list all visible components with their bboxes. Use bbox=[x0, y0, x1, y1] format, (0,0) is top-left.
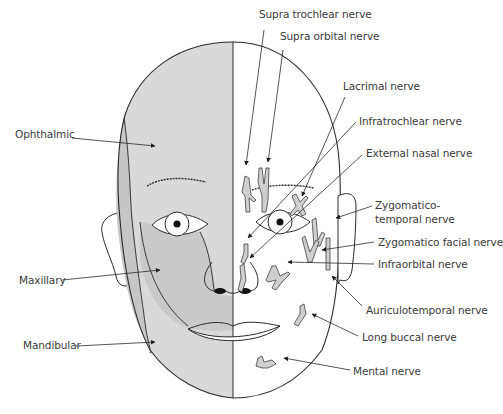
right-pupil bbox=[277, 219, 284, 226]
long-buccal-branch bbox=[294, 304, 306, 326]
label-ophthalmic: Ophthalmic bbox=[15, 128, 75, 141]
label-auriculotemporal-nerve: Auriculotemporal nerve bbox=[366, 304, 488, 317]
label-mental-nerve: Mental nerve bbox=[353, 365, 421, 378]
infraorbital-branch bbox=[266, 266, 290, 290]
infratrochlear-branch bbox=[241, 244, 248, 264]
label-zygomatico-temporal-nerve-line1: Zygomatico- bbox=[375, 199, 440, 212]
supra-orbital-pointer bbox=[268, 50, 283, 162]
mandibular-pointer bbox=[76, 342, 155, 346]
zygomaticofacial-branch bbox=[302, 236, 319, 262]
label-supra-orbital-nerve: Supra orbital nerve bbox=[280, 30, 379, 43]
external-nasal-branch bbox=[238, 264, 246, 292]
supratrochlear-branch bbox=[242, 176, 256, 212]
left-nostril bbox=[214, 288, 226, 294]
label-maxillary: Maxillary bbox=[19, 274, 66, 287]
label-mandibular: Mandibular bbox=[23, 339, 81, 352]
label-infraorbital-nerve: Infraorbital nerve bbox=[378, 258, 468, 271]
mental-branch bbox=[256, 356, 276, 368]
right-ear bbox=[338, 194, 356, 284]
infraorbital-pointer bbox=[288, 262, 374, 264]
auriculotemporal-branch bbox=[326, 238, 330, 270]
supra-trochlear-pointer bbox=[246, 30, 264, 165]
left-pupil bbox=[174, 221, 181, 228]
label-infratrochlear-nerve: Infratrochlear nerve bbox=[359, 115, 462, 128]
label-zygomatico-facial-nerve: Zygomatico facial nerve bbox=[378, 236, 503, 249]
long-buccal-pointer bbox=[312, 314, 358, 336]
label-supra-trochlear-nerve: Supra trochlear nerve bbox=[259, 8, 372, 21]
label-zygomatico-temporal-nerve-line2: temporal nerve bbox=[375, 213, 455, 226]
lacrimal-pointer bbox=[302, 97, 345, 196]
label-lacrimal-nerve: Lacrimal nerve bbox=[343, 80, 420, 93]
supraorbital-branch bbox=[258, 168, 269, 212]
label-long-buccal-nerve: Long buccal nerve bbox=[362, 331, 457, 344]
mental-pointer bbox=[284, 358, 350, 370]
label-external-nasal-nerve: External nasal nerve bbox=[366, 147, 472, 160]
